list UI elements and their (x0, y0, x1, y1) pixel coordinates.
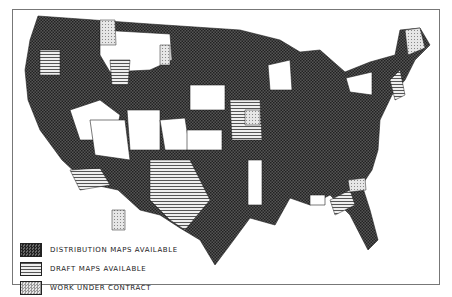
legend-label: DRAFT MAPS AVAILABLE (50, 265, 146, 273)
legend-label: WORK UNDER CONTRACT (50, 284, 151, 292)
legend: DISTRIBUTION MAPS AVAILABLE DRAFT MAPS A… (20, 240, 178, 297)
dark-pattern-swatch-icon (20, 243, 42, 257)
legend-item-contract: WORK UNDER CONTRACT (20, 278, 178, 297)
legend-item-draft: DRAFT MAPS AVAILABLE (20, 259, 178, 278)
lines-pattern-swatch-icon (20, 262, 42, 276)
legend-label: DISTRIBUTION MAPS AVAILABLE (50, 246, 178, 254)
legend-item-distribution: DISTRIBUTION MAPS AVAILABLE (20, 240, 178, 259)
map-base-region (25, 16, 430, 265)
dots-pattern-swatch-icon (20, 281, 42, 295)
